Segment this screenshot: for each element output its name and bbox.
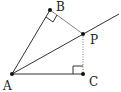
label-a: A [2, 79, 12, 92]
ray-ap [12, 14, 119, 74]
segment-ab [12, 10, 50, 74]
label-b: B [56, 0, 65, 14]
geometry-diagram: A B P C [0, 0, 121, 92]
label-p: P [90, 33, 98, 47]
right-angle-mark-b [46, 15, 57, 22]
label-c: C [89, 75, 98, 89]
point-a [10, 72, 14, 76]
point-b [48, 8, 52, 12]
segment-bp [50, 10, 83, 34]
point-p [81, 32, 85, 36]
point-c [81, 72, 85, 76]
